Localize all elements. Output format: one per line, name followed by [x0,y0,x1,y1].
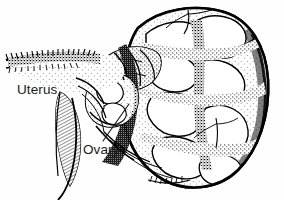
illustration-canvas [0,0,284,200]
label-uterus: Uterus [17,83,57,97]
anatomical-figure: Uterus Ovary [0,0,284,200]
label-ovary: Ovary [83,143,120,157]
